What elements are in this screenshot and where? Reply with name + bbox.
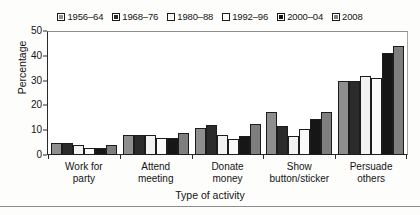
x-axis-category-label-line1: Work for	[65, 161, 103, 172]
bar	[156, 138, 167, 155]
bar-group	[51, 31, 117, 155]
bar	[266, 112, 277, 155]
x-axis-category-label: Persuadeothers	[326, 161, 416, 184]
chart-legend: 1956–641968–761980–881992–962000–042008	[0, 9, 420, 24]
x-axis-tick-mark	[192, 155, 193, 159]
x-axis-category-label-line1: Persuade	[350, 161, 393, 172]
bars-layer	[48, 31, 407, 155]
legend-swatch-icon	[277, 13, 285, 21]
bar-group	[266, 31, 332, 155]
bar	[106, 145, 117, 155]
x-axis-category-label-line1: Show	[287, 161, 312, 172]
legend-entry: 1956–64	[57, 12, 103, 22]
bar	[393, 46, 404, 155]
legend-label: 1980–88	[177, 12, 213, 22]
x-axis-tick-mark	[263, 155, 264, 159]
bar	[228, 139, 239, 155]
legend-entry: 1992–96	[222, 12, 268, 22]
bar	[338, 81, 349, 155]
legend-entry: 1980–88	[167, 12, 213, 22]
bar	[310, 119, 321, 155]
legend-swatch-icon	[332, 13, 340, 21]
y-axis-title: Percentage	[17, 20, 28, 116]
bar	[382, 53, 393, 155]
y-axis-tick-label: 0	[36, 150, 42, 160]
legend-label: 2000–04	[287, 12, 323, 22]
y-axis-tick-label: 40	[31, 51, 42, 61]
bar	[217, 135, 228, 155]
legend-entry: 1968–76	[112, 12, 158, 22]
x-axis-tick-mark	[120, 155, 121, 159]
x-axis-category-label-line2: others	[326, 173, 416, 185]
legend-label: 1992–96	[232, 12, 268, 22]
bar	[51, 143, 62, 155]
bar	[134, 135, 145, 155]
bar	[123, 135, 134, 155]
bar	[321, 112, 332, 155]
y-axis-tick-label: 30	[31, 76, 42, 86]
bar	[178, 133, 189, 155]
bar	[250, 124, 261, 155]
y-axis-tick-label: 50	[31, 26, 42, 36]
legend-label: 2008	[342, 12, 363, 22]
legend-swatch-icon	[112, 13, 120, 21]
bar	[277, 126, 288, 155]
bar	[62, 143, 73, 155]
legend-label: 1968–76	[122, 12, 158, 22]
bar	[145, 135, 156, 155]
bar	[206, 125, 217, 155]
bar	[195, 128, 206, 155]
bar	[299, 129, 310, 155]
x-axis-title: Type of activity	[0, 189, 420, 201]
bar	[371, 78, 382, 155]
x-axis-tick-mark	[335, 155, 336, 159]
x-axis-category-label-line1: Donate	[211, 161, 243, 172]
legend-swatch-icon	[167, 13, 175, 21]
legend-swatch-icon	[57, 13, 65, 21]
bar	[73, 145, 84, 155]
x-axis-tick-mark	[406, 155, 407, 159]
legend-entry: 2008	[332, 12, 363, 22]
y-axis-tick-label: 20	[31, 100, 42, 110]
x-axis-category-labels: Work forpartyAttendmeetingDonatemoneySho…	[40, 161, 415, 187]
bar	[288, 136, 299, 155]
bar	[349, 81, 360, 155]
legend-label: 1956–64	[67, 12, 103, 22]
bar-chart-figure: 1956–641968–761980–881992–962000–042008 …	[0, 0, 420, 215]
y-axis-tick-label: 10	[31, 125, 42, 135]
bar	[84, 148, 95, 155]
x-axis-tick-mark	[48, 155, 49, 159]
bar	[167, 138, 178, 155]
bar	[239, 136, 250, 155]
bar-group	[338, 31, 404, 155]
bar-group	[195, 31, 261, 155]
legend-entry: 2000–04	[277, 12, 323, 22]
x-axis-category-label-line1: Attend	[141, 161, 170, 172]
legend-swatch-icon	[222, 13, 230, 21]
bar	[360, 76, 371, 155]
bar	[95, 148, 106, 155]
page-divider-rule	[0, 206, 420, 207]
bar-group	[123, 31, 189, 155]
x-axis	[48, 155, 407, 160]
